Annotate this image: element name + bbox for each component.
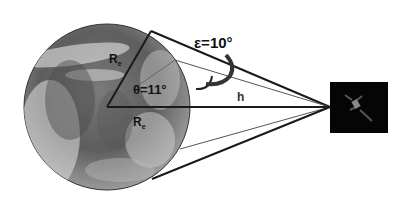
radius-symbol: R [133,115,142,129]
radius-symbol: R [109,52,118,66]
radius-subscript: e [142,123,146,130]
slant-line-upper [175,60,330,107]
satellite-image [330,82,388,133]
radius-subscript: e [118,60,122,67]
altitude-label: h [237,91,244,103]
radius-label-lower: Re [133,116,146,130]
slant-line-lower [180,107,330,149]
elevation-angle-label: ε=10° [194,35,233,50]
central-angle-label: θ=11° [133,83,167,96]
radius-label-upper: Re [109,53,122,67]
diagram-canvas [0,0,408,202]
